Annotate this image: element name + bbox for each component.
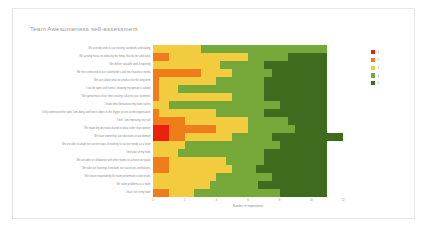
chart-bar-row: I fully understand the work I am doing a… [153, 109, 343, 116]
legend-label: 2 [377, 58, 379, 62]
bar-segment-2 [153, 53, 169, 60]
bar-segment-5 [288, 117, 328, 124]
bar-segment-4 [185, 141, 280, 148]
bar-segment-5 [264, 85, 327, 92]
chart-bar-row: We share responsibility for team perform… [153, 173, 343, 180]
bar-segment-4 [178, 149, 264, 156]
chart-bar-row: We take our learnings from both our succ… [153, 165, 343, 172]
chart-bar-row: We feel connected to our stakeholders an… [153, 69, 343, 76]
bar-segment-3 [169, 189, 194, 196]
bar-segment-3 [153, 61, 220, 68]
bar-segment-3 [185, 117, 248, 124]
bar-category-label: We care about what we produce for the lo… [35, 79, 151, 82]
stacked-bar [153, 45, 327, 52]
bar-segment-4 [232, 165, 256, 172]
legend-item[interactable]: 3 [371, 65, 379, 71]
bar-segment-4 [232, 69, 272, 76]
bar-segment-3 [169, 165, 232, 172]
stacked-bar [153, 101, 327, 108]
bar-segment-3 [185, 133, 233, 140]
x-axis-tick: 10 [310, 198, 313, 202]
bar-segment-3 [169, 53, 248, 60]
legend-item[interactable]: 4 [371, 72, 379, 78]
bar-segment-5 [264, 93, 327, 100]
legend-item[interactable]: 2 [371, 57, 379, 63]
bar-segment-2 [153, 69, 201, 76]
bar-segment-4 [169, 101, 280, 108]
x-axis: Number of respondents 024681012 [153, 197, 343, 211]
bar-segment-2 [153, 189, 169, 196]
bar-segment-4 [220, 61, 264, 68]
chart-bar-row: I can be open and honest, knowing my opi… [153, 85, 343, 92]
stacked-bar [153, 157, 327, 164]
chart-card: Team Awesomeness self-assessment We acti… [12, 8, 415, 219]
bar-segment-5 [264, 77, 327, 84]
x-axis-tick: 6 [247, 198, 249, 202]
bar-segment-2 [153, 165, 169, 172]
legend-swatch-icon [371, 66, 375, 70]
bar-segment-5 [280, 189, 328, 196]
stacked-bar [153, 77, 327, 84]
bar-segment-5 [264, 157, 327, 164]
bar-segment-4 [248, 53, 288, 60]
bar-segment-2 [153, 157, 169, 164]
chart-legend: 12345 [371, 49, 379, 88]
bar-segment-5 [295, 125, 327, 132]
chart-bar-row: We deliver valuable work frequently [153, 61, 343, 68]
chart-bar-row: We are able to collaborate with other te… [153, 157, 343, 164]
bar-segment-4 [226, 157, 264, 164]
bar-category-label: I feel I am improving my craft [35, 119, 151, 122]
stacked-bar [153, 189, 327, 196]
legend-swatch-icon [371, 50, 375, 54]
bar-segment-4 [210, 181, 258, 188]
bar-segment-5 [288, 53, 328, 60]
chart-bar-row: We care about what we produce for the lo… [153, 77, 343, 84]
bar-segment-3 [159, 109, 216, 116]
bar-segment-4 [216, 77, 264, 84]
bar-segment-4 [248, 125, 296, 132]
legend-item[interactable]: 5 [371, 80, 379, 86]
stacked-bar [153, 125, 327, 132]
bar-segment-5 [264, 149, 327, 156]
bar-category-label: We actively seek to use existing standar… [35, 47, 151, 50]
bar-segment-5 [264, 61, 327, 68]
chart-bar-row: We spend most of our time creating value… [153, 93, 343, 100]
stacked-bar [153, 165, 327, 172]
bar-category-label: We take our learnings from both our succ… [35, 167, 151, 170]
bar-category-label: We actively focus on reducing the things… [35, 55, 151, 58]
bar-segment-5 [280, 141, 328, 148]
bar-category-label: We feel connected to our stakeholders an… [35, 71, 151, 74]
stacked-bar [153, 133, 343, 140]
bar-segment-3 [216, 125, 248, 132]
legend-label: 4 [377, 74, 379, 78]
bar-segment-5 [272, 133, 343, 140]
bar-segment-3 [153, 149, 178, 156]
x-axis-label: Number of respondents [233, 204, 263, 208]
bar-category-label: We spend most of our time creating value… [35, 95, 151, 98]
stacked-bar [153, 69, 327, 76]
bar-segment-5 [258, 181, 328, 188]
stacked-bar [153, 117, 327, 124]
x-axis-tick: 4 [216, 198, 218, 202]
chart-bar-row: We actively seek to use existing standar… [153, 45, 343, 52]
bar-segment-3 [153, 181, 210, 188]
bar-category-label: I fully understand the work I am doing a… [35, 111, 151, 114]
bar-segment-1 [153, 133, 169, 140]
chart-bar-row: We solve problems as a team [153, 181, 343, 188]
legend-swatch-icon [371, 58, 375, 62]
legend-item[interactable]: 1 [371, 49, 379, 55]
page-title: Team Awesomeness self-assessment [30, 25, 138, 32]
stacked-bar [153, 85, 327, 92]
bar-segment-5 [264, 109, 327, 116]
bar-category-label: We have ownership over decisions in our … [35, 135, 151, 138]
legend-label: 3 [377, 66, 379, 70]
legend-label: 1 [377, 50, 379, 54]
stacked-bar [153, 109, 327, 116]
chart-bar-row: I feel I am improving my craft [153, 117, 343, 124]
chart-bar-row: We make big decisions based on data rath… [153, 125, 343, 132]
chart-bar-row: We actively focus on reducing the things… [153, 53, 343, 60]
bar-segment-3 [153, 45, 201, 52]
chart-bar-row: I have fun in my team [153, 189, 343, 196]
bar-segment-4 [232, 133, 272, 140]
bar-category-label: We make big decisions based on data rath… [35, 127, 151, 130]
